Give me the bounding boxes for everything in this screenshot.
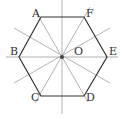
hexagon-diagram: A F E D C B O <box>0 0 126 128</box>
hexagon-figure: A F E D C B O <box>0 0 126 128</box>
label-E: E <box>109 45 117 58</box>
label-O: O <box>74 45 83 58</box>
label-D: D <box>86 91 95 104</box>
center-point <box>60 55 64 59</box>
label-C: C <box>31 91 39 104</box>
label-A: A <box>31 7 41 20</box>
label-F: F <box>86 7 94 20</box>
label-B: B <box>10 45 18 58</box>
